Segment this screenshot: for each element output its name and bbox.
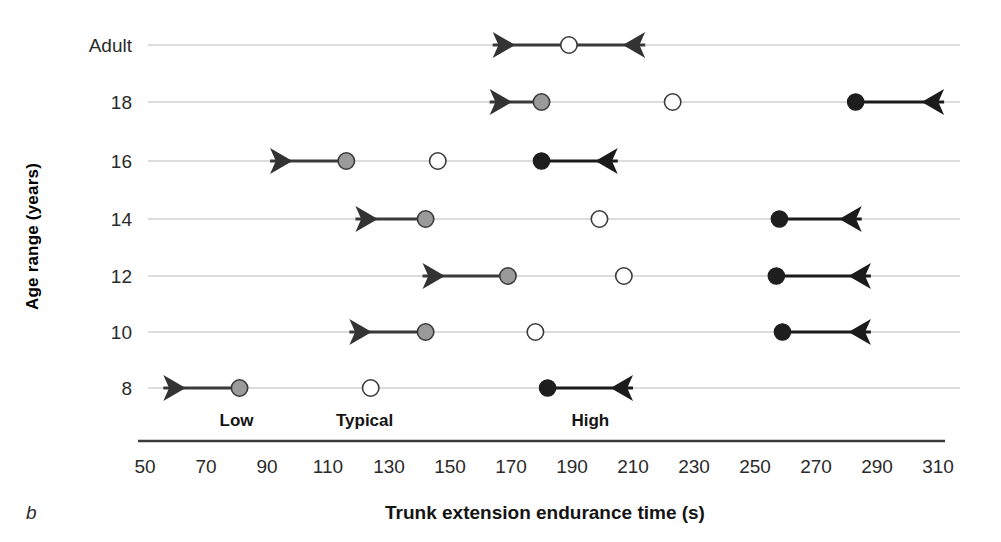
y-tick-adult: Adult xyxy=(89,35,133,56)
x-tick-130: 130 xyxy=(373,456,405,477)
zone-label-low: Low xyxy=(220,411,255,430)
marker-high-18 xyxy=(847,94,863,110)
figure-panel-b: Adult18161412108 50709011013015017019021… xyxy=(0,0,1001,542)
x-tick-210: 210 xyxy=(617,456,649,477)
marker-low-10 xyxy=(417,324,433,340)
x-tick-310: 310 xyxy=(922,456,954,477)
x-tick-70: 70 xyxy=(195,456,216,477)
marker-low-16 xyxy=(338,153,354,169)
x-tick-170: 170 xyxy=(495,456,527,477)
marker-high-10 xyxy=(774,324,790,340)
zone-label-high: High xyxy=(571,411,609,430)
y-axis-title: Age range (years) xyxy=(23,163,42,310)
zone-labels: LowTypicalHigh xyxy=(220,411,610,430)
marker-typical-14 xyxy=(591,211,607,227)
data-rows xyxy=(163,37,944,396)
zone-label-typical: Typical xyxy=(336,411,393,430)
x-tick-50: 50 xyxy=(134,456,155,477)
panel-letter: b xyxy=(26,502,37,523)
marker-low-18 xyxy=(533,94,549,110)
marker-low-8 xyxy=(231,380,247,396)
y-axis-tick-labels: Adult18161412108 xyxy=(89,35,133,399)
y-tick-12: 12 xyxy=(111,266,132,287)
marker-high-8 xyxy=(539,380,555,396)
y-tick-16: 16 xyxy=(111,151,132,172)
x-tick-90: 90 xyxy=(256,456,277,477)
x-tick-190: 190 xyxy=(556,456,588,477)
row-adult xyxy=(493,37,646,53)
x-tick-230: 230 xyxy=(678,456,710,477)
y-tick-18: 18 xyxy=(111,92,132,113)
marker-typical-8 xyxy=(363,380,379,396)
x-tick-290: 290 xyxy=(861,456,893,477)
marker-high-14 xyxy=(771,211,787,227)
marker-typical-12 xyxy=(616,268,632,284)
marker-typical-18 xyxy=(664,94,680,110)
y-tick-14: 14 xyxy=(111,209,133,230)
marker-typical-10 xyxy=(527,324,543,340)
gridlines xyxy=(148,45,960,388)
scatter-plot-canvas: Adult18161412108 50709011013015017019021… xyxy=(0,0,1001,542)
y-tick-10: 10 xyxy=(111,322,132,343)
marker-typical-16 xyxy=(430,153,446,169)
x-tick-150: 150 xyxy=(434,456,466,477)
x-tick-270: 270 xyxy=(800,456,832,477)
marker-high-16 xyxy=(533,153,549,169)
x-axis-title: Trunk extension endurance time (s) xyxy=(385,502,705,523)
y-tick-8: 8 xyxy=(121,378,132,399)
marker-typical-adult xyxy=(561,37,577,53)
row-16 xyxy=(270,153,618,169)
marker-low-12 xyxy=(500,268,516,284)
x-tick-110: 110 xyxy=(313,456,343,477)
x-axis-tick-labels: 507090110130150170190210230250270290310 xyxy=(134,456,953,477)
marker-high-12 xyxy=(768,268,784,284)
marker-low-14 xyxy=(417,211,433,227)
x-tick-250: 250 xyxy=(739,456,771,477)
